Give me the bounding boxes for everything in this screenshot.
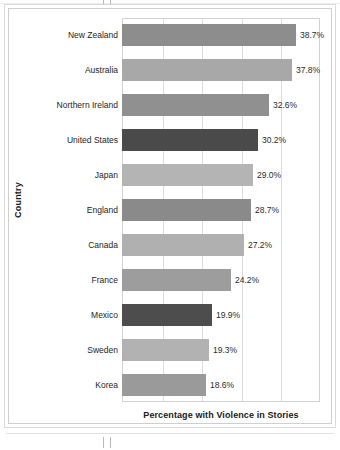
bar-value-label: 19.3% [209, 345, 237, 355]
bar[interactable] [122, 94, 269, 116]
bar[interactable] [122, 129, 258, 151]
category-axis-labels: New ZealandAustraliaNorthern IrelandUnit… [0, 18, 118, 402]
bar[interactable] [122, 339, 209, 361]
category-label: New Zealand [0, 30, 118, 40]
category-label: Australia [0, 65, 118, 75]
bar-value-label: 38.7% [296, 30, 324, 40]
bars-layer: 38.7%37.8%32.6%30.2%29.0%28.7%27.2%24.2%… [122, 18, 320, 402]
page-edge-bottom [6, 433, 334, 434]
bar[interactable] [122, 59, 292, 81]
category-label: Mexico [0, 310, 118, 320]
bar[interactable] [122, 234, 244, 256]
category-label: Northern Ireland [0, 100, 118, 110]
bar-value-label: 18.6% [206, 380, 234, 390]
bar-row: 19.3% [122, 339, 320, 361]
bar[interactable] [122, 269, 231, 291]
bar[interactable] [122, 199, 251, 221]
bar-row: 38.7% [122, 24, 320, 46]
bar-row: 30.2% [122, 129, 320, 151]
bar-value-label: 30.2% [258, 135, 286, 145]
category-label: United States [0, 135, 118, 145]
bar-row: 28.7% [122, 199, 320, 221]
bar-value-label: 19.9% [212, 310, 240, 320]
bar-value-label: 28.7% [251, 205, 279, 215]
bar-value-label: 37.8% [292, 65, 320, 75]
bar-row: 29.0% [122, 164, 320, 186]
category-label: Sweden [0, 345, 118, 355]
bar-value-label: 29.0% [253, 170, 281, 180]
category-label: England [0, 205, 118, 215]
category-label: France [0, 275, 118, 285]
bar-row: 24.2% [122, 269, 320, 291]
x-axis-title: Percentage with Violence in Stories [122, 410, 320, 420]
bar-row: 18.6% [122, 374, 320, 396]
bar-row: 19.9% [122, 304, 320, 326]
bar-value-label: 24.2% [231, 275, 259, 285]
bar-value-label: 27.2% [244, 240, 272, 250]
page-binding-mark-bottom [103, 437, 111, 448]
bar[interactable] [122, 164, 253, 186]
bar[interactable] [122, 24, 296, 46]
bar[interactable] [122, 374, 206, 396]
bar-chart: Country 38.7%37.8%32.6%30.2%29.0%28.7%27… [0, 0, 340, 450]
category-label: Canada [0, 240, 118, 250]
bar[interactable] [122, 304, 212, 326]
category-label: Korea [0, 380, 118, 390]
bar-value-label: 32.6% [269, 100, 297, 110]
bar-row: 27.2% [122, 234, 320, 256]
category-label: Japan [0, 170, 118, 180]
bar-row: 37.8% [122, 59, 320, 81]
bar-row: 32.6% [122, 94, 320, 116]
